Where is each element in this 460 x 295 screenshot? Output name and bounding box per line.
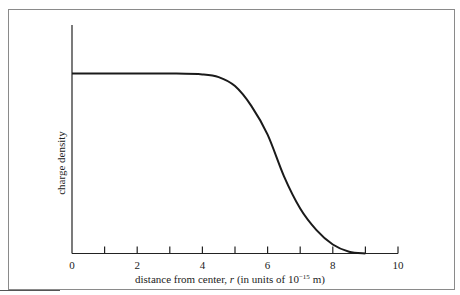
axes: 0246810 bbox=[69, 25, 404, 271]
y-axis-label: charge density bbox=[55, 131, 67, 195]
x-axis-label-main: distance from center, bbox=[135, 273, 230, 285]
x-axis-label-suffix: m) bbox=[310, 273, 325, 286]
x-tick-label: 2 bbox=[134, 259, 140, 271]
data-line-charge-density bbox=[72, 73, 365, 253]
x-axis-label-exponent: −15 bbox=[299, 273, 310, 281]
x-tick-label: 8 bbox=[330, 259, 336, 271]
x-axis-label-units: (in units of 10 bbox=[234, 273, 299, 286]
x-tick-label: 6 bbox=[265, 259, 271, 271]
chart-area: 0246810 charge density distance from cen… bbox=[0, 0, 460, 295]
x-tick-label: 10 bbox=[393, 259, 405, 271]
x-axis-tick-labels: 0246810 bbox=[69, 259, 404, 271]
x-tick-label: 4 bbox=[200, 259, 206, 271]
x-axis-label: distance from center, r (in units of 10−… bbox=[135, 273, 325, 286]
x-tick-label: 0 bbox=[69, 259, 75, 271]
